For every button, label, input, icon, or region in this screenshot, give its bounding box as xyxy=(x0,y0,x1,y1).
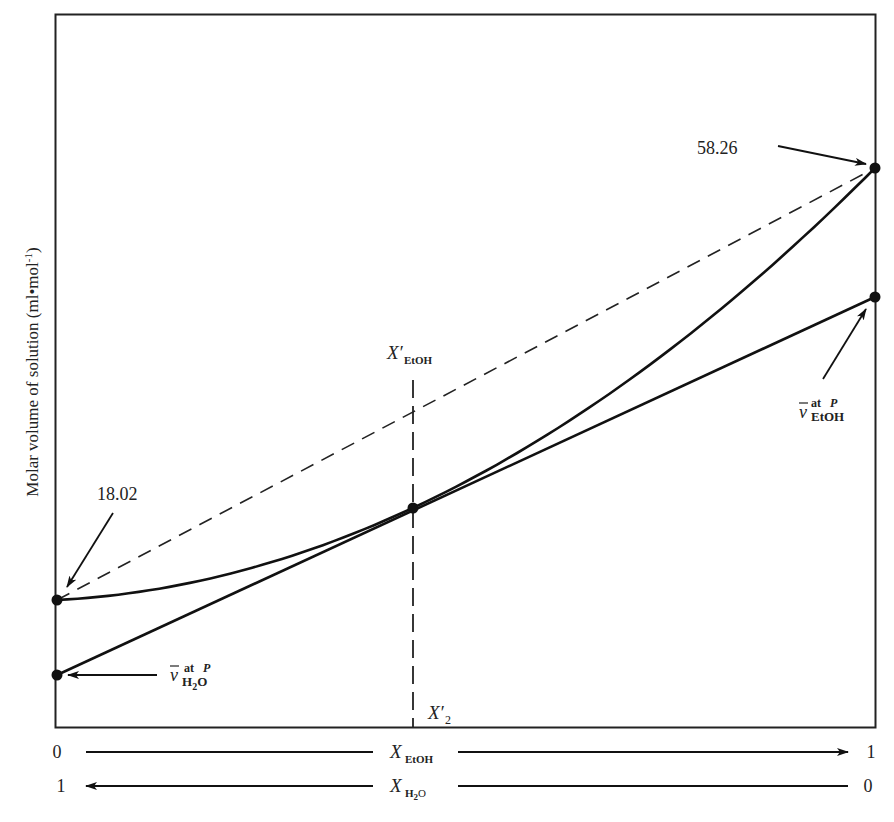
arrow-v-etoh xyxy=(823,309,866,379)
svg-text:EtOH: EtOH xyxy=(405,753,434,765)
x-etoh-right-tick: 1 xyxy=(867,742,876,762)
svg-text:EtOH: EtOH xyxy=(404,354,433,366)
svg-text:X: X xyxy=(389,741,403,762)
point-tangent xyxy=(408,503,419,514)
annotation-58-26: 58.26 xyxy=(697,138,738,158)
label-x-prime-2: X′ 2 xyxy=(427,702,451,727)
svg-text:at: at xyxy=(184,661,194,675)
chart: Molar volume of solution (ml•mol-1) 58.2… xyxy=(0,0,894,822)
point-ethanol-pure xyxy=(870,163,881,174)
arrow-58-26 xyxy=(778,146,866,164)
svg-text:EtOH: EtOH xyxy=(811,409,844,424)
y-axis-label: Molar volume of solution (ml•mol-1) xyxy=(22,247,42,496)
svg-text:X′: X′ xyxy=(427,702,445,723)
x-etoh-left-tick: 0 xyxy=(53,742,62,762)
svg-text:v: v xyxy=(170,665,178,685)
label-v-etoh: v at P EtOH xyxy=(799,396,844,424)
ideal-mixing-dashed-line xyxy=(57,168,875,600)
svg-text:X: X xyxy=(389,775,403,796)
tangent-line xyxy=(57,297,875,675)
arrow-18-02 xyxy=(67,513,113,587)
svg-text:at: at xyxy=(811,396,821,410)
svg-text:P: P xyxy=(830,396,838,410)
annotation-18-02: 18.02 xyxy=(97,484,138,504)
x-h2o-right-tick: 0 xyxy=(864,776,873,796)
x-axis-water: 1 X H2O 0 xyxy=(57,775,873,802)
point-ethanol-partial xyxy=(870,292,881,303)
label-x-prime-etoh: X′ EtOH xyxy=(386,342,433,366)
x-h2o-left-tick: 1 xyxy=(57,776,66,796)
plot-frame xyxy=(56,15,876,728)
svg-text:2: 2 xyxy=(445,713,451,727)
svg-text:H2O: H2O xyxy=(182,674,207,692)
point-water-partial xyxy=(52,670,63,681)
point-water-pure xyxy=(52,595,63,606)
svg-text:X′: X′ xyxy=(386,342,404,363)
svg-text:v: v xyxy=(799,402,807,422)
x-axis-ethanol: 0 X EtOH 1 xyxy=(53,741,876,765)
svg-text:H2O: H2O xyxy=(405,787,426,802)
svg-text:P: P xyxy=(203,661,211,675)
label-v-h2o: v at P H2O xyxy=(170,661,211,692)
